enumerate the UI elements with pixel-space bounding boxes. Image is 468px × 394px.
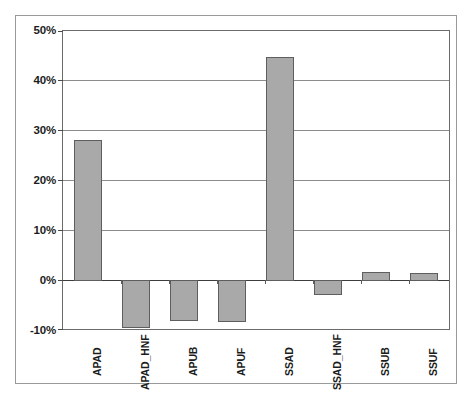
- gridline-30: [63, 130, 449, 131]
- gridline-10: [63, 230, 449, 231]
- y-axis-tick: [58, 230, 63, 231]
- x-axis-category-label: SSUF: [427, 348, 439, 376]
- y-axis-tick: [58, 130, 63, 131]
- y-axis-tick-label: 0%: [40, 274, 56, 286]
- x-axis-category-label: APAD_HNF: [139, 334, 151, 390]
- gridline-40: [63, 80, 449, 81]
- y-axis-tick: [58, 329, 63, 330]
- y-axis-tick: [58, 280, 63, 281]
- bar-ssad-hnf: [314, 280, 342, 295]
- y-axis-labels: 50% 40% 30% 20% 10% 0% -10%: [0, 0, 56, 394]
- y-axis-tick: [58, 80, 63, 81]
- y-axis-tick-label: 50%: [34, 24, 56, 36]
- x-axis-labels: APAD APAD_HNF APUB APUF SSAD SSAD_HNF SS…: [62, 332, 450, 392]
- bar-chart-figure: 50% 40% 30% 20% 10% 0% -10%: [0, 0, 468, 394]
- bar-ssub: [362, 272, 390, 281]
- bar-ssad: [266, 57, 294, 281]
- gridline-20: [63, 180, 449, 181]
- y-axis-tick-label: -10%: [30, 324, 56, 336]
- bar-apad: [74, 140, 102, 281]
- bar-ssuf: [410, 273, 438, 281]
- y-axis-tick-label: 40%: [34, 74, 56, 86]
- y-axis-tick: [58, 31, 63, 32]
- y-axis-tick-label: 20%: [34, 174, 56, 186]
- x-axis-category-label: APAD: [91, 347, 103, 376]
- bar-apuf: [218, 280, 246, 322]
- x-axis-category-label: SSAD: [283, 347, 295, 376]
- plot-area: [62, 30, 450, 330]
- y-axis-tick-label: 30%: [34, 124, 56, 136]
- x-axis-category-label: APUF: [235, 348, 247, 376]
- y-axis-tick-label: 10%: [34, 224, 56, 236]
- x-axis-category-label: SSUB: [379, 347, 391, 376]
- x-axis-category-label: SSAD_HNF: [331, 334, 343, 390]
- y-axis-tick: [58, 180, 63, 181]
- bar-apad-hnf: [122, 280, 150, 328]
- x-axis-category-label: APUB: [187, 347, 199, 376]
- bar-apub: [170, 280, 198, 321]
